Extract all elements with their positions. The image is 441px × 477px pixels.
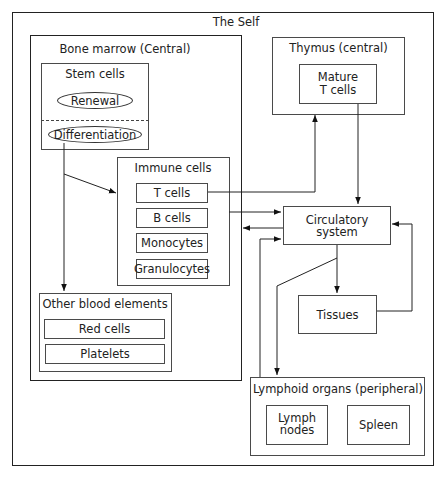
connector-arrows: [0, 0, 441, 477]
